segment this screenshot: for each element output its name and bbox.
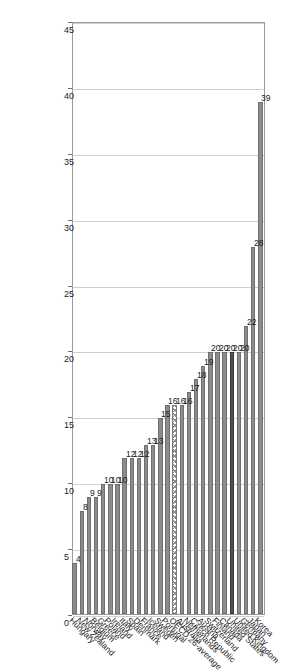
bar-row — [230, 352, 234, 614]
tick-mark — [68, 154, 72, 155]
bar[interactable] — [165, 405, 169, 614]
bar-row — [201, 366, 205, 614]
bar[interactable] — [244, 326, 248, 614]
tick-mark — [68, 483, 72, 484]
tick-label: 15 — [64, 421, 74, 430]
tick-label: 5 — [64, 553, 69, 562]
bar[interactable] — [187, 392, 191, 614]
tick-label: 40 — [64, 92, 74, 101]
bar[interactable] — [230, 352, 234, 614]
tick-label: 20 — [64, 355, 74, 364]
bar[interactable] — [101, 484, 105, 614]
bar-value-label: 16 — [169, 397, 178, 406]
bar-row — [187, 392, 191, 614]
bar-value-label: 18 — [197, 371, 206, 380]
bar-value-label: 17 — [190, 384, 199, 393]
tick-mark — [68, 88, 72, 89]
bar-row — [194, 379, 198, 614]
tick-label: 30 — [64, 224, 74, 233]
bar-row — [151, 445, 155, 614]
tick-mark — [68, 417, 72, 418]
bar-row — [137, 458, 141, 614]
bar[interactable] — [258, 102, 262, 614]
bar-row — [108, 484, 112, 614]
bar-row — [165, 405, 169, 614]
bar-row — [208, 352, 212, 614]
bar-row — [172, 405, 176, 614]
bar-value-label: 22 — [247, 318, 256, 327]
bar-value-label: 20 — [211, 344, 220, 353]
tick-mark — [68, 220, 72, 221]
bar-row — [130, 458, 134, 614]
bar[interactable] — [151, 445, 155, 614]
tick-mark — [68, 286, 72, 287]
bar[interactable] — [237, 352, 241, 614]
bar-value-label: 39 — [261, 94, 270, 103]
bar-value-label: 15 — [161, 410, 170, 419]
bar-row — [251, 247, 255, 614]
bar-row — [244, 326, 248, 614]
tick-mark — [68, 615, 72, 616]
bar[interactable] — [87, 497, 91, 614]
tick-mark — [68, 549, 72, 550]
bar[interactable] — [137, 458, 141, 614]
bar[interactable] — [115, 484, 119, 614]
bar-row — [87, 497, 91, 614]
bar-row — [222, 352, 226, 614]
bar-value-label: 12 — [126, 450, 135, 459]
bar[interactable] — [215, 352, 219, 614]
bar[interactable] — [72, 563, 76, 614]
bar-value-label: 8 — [83, 502, 88, 511]
bar-row — [144, 445, 148, 614]
bar[interactable] — [222, 352, 226, 614]
tick-mark — [68, 22, 72, 23]
bar-value-label: 10 — [104, 476, 113, 485]
bar-value-label: 19 — [204, 357, 213, 366]
bar[interactable] — [172, 405, 176, 614]
bar[interactable] — [158, 418, 162, 614]
bar[interactable] — [108, 484, 112, 614]
tick-label: 45 — [64, 26, 74, 35]
bar-row — [215, 352, 219, 614]
bar-value-label: 28 — [254, 239, 263, 248]
bar[interactable] — [201, 366, 205, 614]
bar-row — [237, 352, 241, 614]
plot-area — [72, 22, 265, 615]
bar[interactable] — [130, 458, 134, 614]
bars-group — [73, 23, 264, 614]
tick-label: 0 — [64, 619, 69, 628]
bar[interactable] — [180, 405, 184, 614]
bar-value-label: 9 — [90, 489, 95, 498]
bar[interactable] — [251, 247, 255, 614]
tick-label: 35 — [64, 158, 74, 167]
bar[interactable] — [94, 497, 98, 614]
bar-row — [101, 484, 105, 614]
tick-label: 10 — [64, 487, 74, 496]
bar[interactable] — [194, 379, 198, 614]
bar-row — [94, 497, 98, 614]
tick-mark — [68, 351, 72, 352]
bar-value-label: 4 — [76, 555, 81, 564]
bar[interactable] — [144, 445, 148, 614]
bar-row — [115, 484, 119, 614]
bar-value-label: 9 — [97, 489, 102, 498]
tick-label: 25 — [64, 290, 74, 299]
bar[interactable] — [208, 352, 212, 614]
bar-value-label: 13 — [147, 436, 156, 445]
bar-row — [158, 418, 162, 614]
bar-row — [180, 405, 184, 614]
bar-row — [72, 563, 76, 614]
bar-row — [258, 102, 262, 614]
